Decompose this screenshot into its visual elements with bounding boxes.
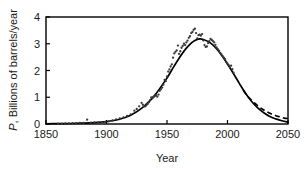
y-tick-label: 3: [34, 38, 40, 50]
data-point: [97, 121, 99, 123]
data-point: [108, 120, 110, 122]
data-point: [149, 99, 151, 101]
data-point: [57, 123, 59, 125]
peak-oil-chart-figure: 01234 18501900195020002050 Year P, Billi…: [0, 0, 305, 169]
data-point: [201, 33, 203, 35]
data-point: [168, 68, 170, 70]
x-axis-title: Year: [156, 152, 179, 164]
data-point: [186, 39, 188, 41]
data-point: [195, 32, 197, 34]
logistic-fit-curve: [46, 39, 288, 124]
observed-data-points: [57, 28, 235, 125]
data-point: [148, 101, 150, 103]
data-point: [111, 119, 113, 121]
y-tick-label: 1: [34, 91, 40, 103]
data-point: [206, 45, 208, 47]
data-point: [228, 64, 230, 66]
x-tick-label: 1950: [155, 128, 179, 140]
data-point: [71, 122, 73, 124]
x-tick-label: 1850: [34, 128, 58, 140]
data-point: [130, 113, 132, 115]
x-axis-tick-labels: 18501900195020002050: [34, 128, 300, 140]
data-point: [104, 121, 106, 123]
data-point: [178, 53, 180, 55]
y-tick-label: 2: [34, 65, 40, 77]
data-point: [75, 122, 77, 124]
data-point: [213, 41, 215, 43]
data-point: [115, 118, 117, 120]
data-point: [171, 63, 173, 65]
data-point: [161, 86, 163, 88]
data-point: [166, 75, 168, 77]
data-point: [177, 44, 179, 46]
data-point: [176, 49, 178, 51]
data-series-layer: [46, 28, 288, 125]
data-point: [189, 35, 191, 37]
data-point: [157, 93, 159, 95]
data-point: [126, 115, 128, 117]
data-point: [165, 80, 167, 82]
data-point: [182, 45, 184, 47]
data-point: [232, 71, 234, 73]
y-axis-tick-labels: 01234: [34, 11, 40, 130]
data-point: [93, 121, 95, 123]
data-point: [167, 70, 169, 72]
data-point: [218, 50, 220, 52]
plot-box-border: [46, 17, 288, 124]
plot-frame: [46, 17, 288, 124]
data-point: [138, 105, 140, 107]
y-axis-title: P, Billions of barrels/year: [7, 9, 19, 131]
data-point: [162, 84, 164, 86]
data-point: [82, 122, 84, 124]
data-point: [133, 109, 135, 111]
data-point: [184, 44, 186, 46]
y-tick-label: 4: [34, 11, 40, 23]
data-point: [61, 123, 63, 125]
data-point: [202, 39, 204, 41]
data-point: [101, 121, 103, 123]
data-point: [196, 37, 198, 39]
x-tick-label: 2050: [276, 128, 300, 140]
data-point: [207, 42, 209, 44]
y-axis-title-rest: , Billions of barrels/year: [7, 9, 19, 124]
data-point: [169, 65, 171, 67]
x-tick-label: 1900: [94, 128, 118, 140]
data-point: [230, 65, 232, 67]
data-point: [64, 122, 66, 124]
data-point: [191, 31, 193, 33]
x-tick-label: 2000: [215, 128, 239, 140]
data-point: [86, 119, 88, 121]
data-point: [194, 28, 196, 30]
data-point: [79, 122, 81, 124]
data-point: [208, 40, 210, 42]
data-point: [179, 50, 181, 52]
data-point: [119, 117, 121, 119]
data-point: [136, 108, 138, 110]
data-point: [172, 57, 174, 59]
data-point: [122, 116, 124, 118]
data-point: [90, 122, 92, 124]
data-point: [68, 122, 70, 124]
chart-canvas: 01234 18501900195020002050 Year P, Billi…: [0, 0, 305, 169]
data-point: [224, 58, 226, 60]
data-point: [156, 96, 158, 98]
data-point: [214, 44, 216, 46]
data-point: [231, 68, 233, 70]
